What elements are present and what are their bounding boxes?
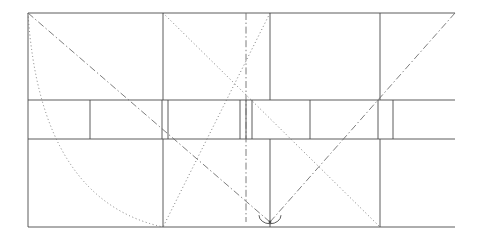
vertex-point-group: [269, 221, 272, 224]
construction-diagram-svg: [0, 0, 485, 239]
geometric-figure-container: [0, 0, 485, 239]
canvas-background: [0, 0, 485, 239]
vertex-point-apex-vertex: [269, 221, 272, 224]
